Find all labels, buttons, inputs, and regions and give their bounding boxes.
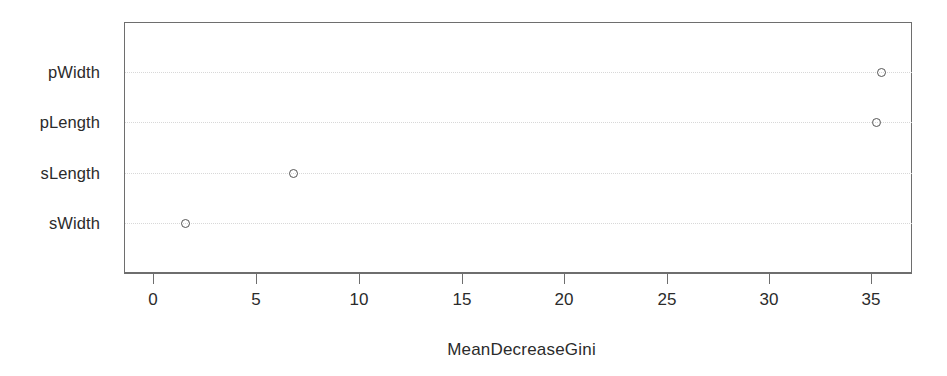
x-tick-label-20: 20 [555, 290, 574, 310]
x-tick-35 [871, 274, 872, 284]
x-tick-10 [359, 274, 360, 284]
gridline-plength [125, 122, 912, 123]
gridline-slength [125, 173, 912, 174]
x-tick-5 [256, 274, 257, 284]
x-tick-label-0: 0 [148, 290, 157, 310]
data-point-swidth[interactable] [181, 219, 190, 228]
x-tick-label-10: 10 [350, 290, 369, 310]
y-axis-label-pwidth: pWidth [0, 63, 100, 82]
x-tick-15 [462, 274, 463, 284]
variable-importance-plot: pWidth pLength sLength sWidth 0 5 10 15 … [0, 0, 947, 376]
y-axis-label-plength: pLength [0, 113, 100, 132]
x-axis-title-text: MeanDecreaseGini [447, 340, 596, 359]
data-point-pwidth[interactable] [877, 68, 886, 77]
y-axis-label-swidth: sWidth [0, 214, 100, 233]
y-axis-labels: pWidth pLength sLength sWidth [0, 0, 100, 376]
gridline-swidth [125, 223, 912, 224]
x-tick-0 [153, 274, 154, 284]
x-tick-label-25: 25 [658, 290, 677, 310]
x-axis-line [124, 273, 912, 274]
data-point-plength[interactable] [872, 118, 881, 127]
plot-frame [124, 22, 912, 273]
x-tick-label-35: 35 [862, 290, 881, 310]
gridline-pwidth [125, 72, 912, 73]
x-tick-25 [667, 274, 668, 284]
data-point-slength[interactable] [289, 169, 298, 178]
x-tick-label-15: 15 [453, 290, 472, 310]
x-tick-20 [564, 274, 565, 284]
x-tick-label-5: 5 [251, 290, 260, 310]
x-tick-30 [769, 274, 770, 284]
x-tick-label-30: 30 [760, 290, 779, 310]
x-axis-title: MeanDecreaseGini [0, 340, 947, 360]
y-axis-label-slength: sLength [0, 164, 100, 183]
